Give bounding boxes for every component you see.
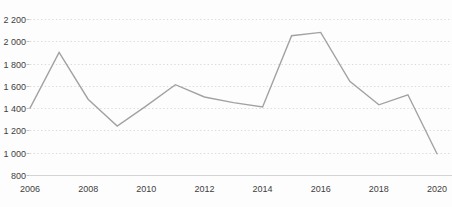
y-tick-label: 2 000 (3, 37, 26, 47)
x-tick-label: 2012 (194, 184, 214, 194)
x-tick-label: 2008 (78, 184, 98, 194)
y-tick-label: 2 200 (3, 15, 26, 25)
y-tick-label: 1 400 (3, 104, 26, 114)
x-tick-label: 2006 (20, 184, 40, 194)
y-tick-label: 1 000 (3, 149, 26, 159)
y-tick-label: 1 600 (3, 82, 26, 92)
x-tick-label: 2020 (427, 184, 447, 194)
x-tick-label: 2018 (369, 184, 389, 194)
y-tick-label: 1 200 (3, 126, 26, 136)
x-tick-label: 2014 (253, 184, 273, 194)
y-tick-label: 1 800 (3, 60, 26, 70)
chart-page: 2 2002 0001 8001 6001 4001 2001 00080020… (0, 0, 452, 207)
data-series-line (30, 32, 437, 153)
y-tick-label: 800 (11, 171, 26, 181)
x-tick-label: 2016 (311, 184, 331, 194)
line-chart: 2 2002 0001 8001 6001 4001 2001 00080020… (0, 0, 452, 207)
x-tick-label: 2010 (136, 184, 156, 194)
